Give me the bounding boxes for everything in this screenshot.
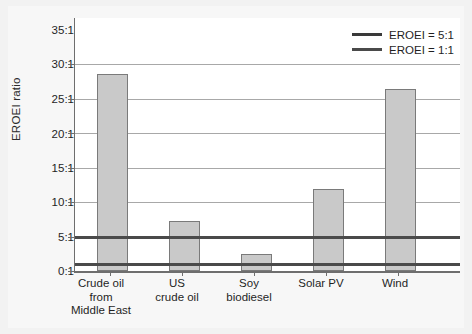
chart-figure: EROEI ratio 35:1 30:1 25:1 20:1 15:1 10:… [0, 0, 472, 334]
x-tick-mark-3 [326, 271, 327, 276]
y-tick-label-25: 25:1 [14, 93, 74, 105]
y-tick-label-0: 0:1 [14, 265, 74, 277]
legend-item-label: EROEI = 5:1 [389, 29, 454, 41]
reference-line-5-to-1 [75, 236, 460, 239]
bar-solar-pv[interactable] [313, 189, 344, 271]
bar-wind[interactable] [385, 89, 416, 271]
x-label-line-3: Middle East [54, 304, 148, 318]
x-tick-mark-2 [254, 271, 255, 276]
legend-line-swatch-icon [352, 48, 382, 50]
y-tick-label-35: 35:1 [14, 24, 74, 36]
x-label-line-2: biodiesel [202, 291, 296, 305]
legend-line-swatch-icon [352, 33, 382, 36]
y-tick-label-10: 10:1 [14, 196, 74, 208]
y-tick-label-15: 15:1 [14, 162, 74, 174]
legend-item-eroei-1-to-1: EROEI = 1:1 [352, 42, 454, 57]
x-tick-mark-4 [398, 271, 399, 276]
y-tick-label-5: 5:1 [14, 231, 74, 243]
y-tick-label-20: 20:1 [14, 128, 74, 140]
x-label-wind: Wind [348, 277, 442, 291]
bar-crude-oil-middle-east[interactable] [97, 74, 128, 271]
x-axis-line [74, 271, 460, 273]
chart-legend: EROEI = 5:1 EROEI = 1:1 [348, 24, 460, 60]
legend-item-eroei-5-to-1: EROEI = 5:1 [352, 27, 454, 42]
legend-item-label: EROEI = 1:1 [389, 44, 454, 56]
x-tick-mark-1 [182, 271, 183, 276]
gridline-30 [75, 64, 460, 65]
reference-line-1-to-1 [75, 263, 460, 266]
y-tick-label-30: 30:1 [14, 58, 74, 70]
x-tick-mark-0 [110, 271, 111, 276]
x-label-line-1: Wind [348, 277, 442, 291]
